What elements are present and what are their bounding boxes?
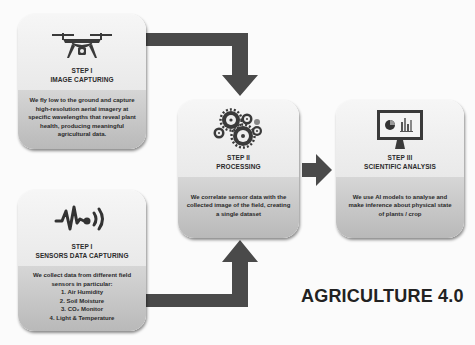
step-title: SENSORS DATA CAPTURING: [35, 251, 128, 260]
step-card-processing: STEP II PROCESSING We correlate sensor d…: [178, 100, 299, 238]
sensor-signal-icon: [54, 203, 110, 235]
list-item: 3. CO₂ Monitor: [50, 305, 115, 314]
sensor-list: 1. Air Humidity 2. Soil Moisture 3. CO₂ …: [50, 288, 115, 322]
step-description: We correlate sensor data with the collec…: [186, 193, 291, 219]
gears-icon: [213, 107, 265, 149]
monitor-chart-icon: [376, 109, 424, 149]
list-item: 4. Light & Temperature: [50, 314, 115, 323]
card-header: STEP II PROCESSING: [178, 100, 299, 177]
step-description: We fly low to the ground and capture hig…: [26, 96, 138, 139]
step-label: STEP II: [227, 153, 250, 162]
step-card-scientific-analysis: STEP III SCIENTIFIC ANALYSIS We use AI m…: [336, 100, 464, 238]
step-title: PROCESSING: [216, 162, 260, 171]
step-title: SCIENTIFIC ANALYSIS: [364, 162, 436, 171]
step-description: We collect data from different field sen…: [26, 271, 138, 288]
arrow-processing-to-analysis: [302, 154, 332, 186]
diagram-title: AGRICULTURE 4.0: [301, 286, 464, 307]
arrow-sensors-to-processing: [145, 238, 265, 310]
card-body: We collect data from different field sen…: [18, 266, 146, 331]
step-label: STEP I: [71, 242, 92, 251]
step-title: IMAGE CAPTURING: [50, 75, 113, 84]
card-body: We use AI models to analyse and make inf…: [336, 177, 464, 238]
drone-icon: [51, 30, 113, 60]
step-description: We use AI models to analyse and make inf…: [344, 193, 456, 219]
card-header: STEP I IMAGE CAPTURING: [18, 14, 146, 90]
list-item: 1. Air Humidity: [50, 288, 115, 297]
card-header: STEP III SCIENTIFIC ANALYSIS: [336, 100, 464, 177]
card-body: We correlate sensor data with the collec…: [178, 177, 299, 238]
card-header: STEP I SENSORS DATA CAPTURING: [18, 190, 146, 266]
step-label: STEP III: [388, 153, 413, 162]
list-item: 2. Soil Moisture: [50, 297, 115, 306]
card-body: We fly low to the ground and capture hig…: [18, 90, 146, 149]
step-card-image-capturing: STEP I IMAGE CAPTURING We fly low to the…: [18, 14, 146, 149]
step-card-sensors-data-capturing: STEP I SENSORS DATA CAPTURING We collect…: [18, 190, 146, 331]
arrow-image-to-processing: [145, 30, 265, 100]
step-label: STEP I: [71, 66, 92, 75]
